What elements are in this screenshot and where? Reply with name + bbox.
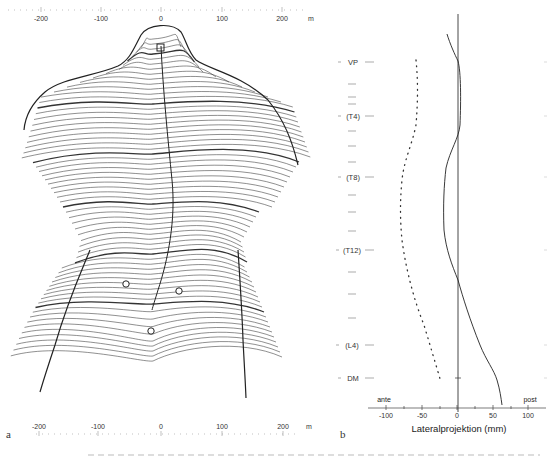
- post-label: post: [523, 396, 536, 404]
- contour-line: [81, 230, 241, 242]
- top-tick-100: 100: [216, 15, 228, 22]
- contour-line: [39, 160, 293, 172]
- top-tick-200: 200: [276, 15, 288, 22]
- bottom-tick-200: 200: [277, 423, 289, 430]
- contour-line: [78, 226, 244, 237]
- contour-line: [51, 181, 281, 192]
- figure-canvas: -200 -100 0 100 200 m -200 -100 0 100 20…: [0, 0, 559, 457]
- contour-line: [75, 221, 247, 232]
- contour-line: [41, 291, 260, 302]
- level-t4: (T4): [346, 112, 360, 121]
- contour-line: [48, 176, 284, 187]
- top-tick-0: 0: [159, 15, 163, 22]
- right-faint-ticks: [544, 62, 547, 378]
- contour-line: [38, 101, 295, 112]
- left-dimple-marker: [123, 281, 129, 287]
- surface-profile-curve: [444, 34, 502, 405]
- bottom-tick-0: 0: [159, 423, 163, 430]
- contour-line: [75, 249, 247, 263]
- contour-line: [60, 197, 272, 207]
- contour-line: [27, 130, 305, 143]
- panel-a-bottom-axis: [36, 431, 295, 436]
- x-axis-title: Lateralprojektion (mm): [411, 423, 506, 434]
- contour-line: [33, 307, 266, 317]
- contour-line: [33, 149, 299, 162]
- contour-line: [36, 301, 265, 312]
- contour-line: [93, 71, 229, 82]
- back-surface-contours: [11, 34, 311, 361]
- panel-b-letter: b: [340, 428, 346, 440]
- right-dimple-marker: [176, 288, 182, 294]
- contour-line: [49, 275, 254, 287]
- contour-line: [36, 155, 296, 168]
- contour-line: [38, 296, 262, 307]
- contour-line: [141, 34, 181, 47]
- xtick-0: 0: [455, 412, 459, 419]
- xtick-50: 50: [489, 412, 497, 419]
- xtick--50: -50: [417, 412, 427, 419]
- dm-marker: [148, 328, 154, 334]
- level-axis: [336, 62, 374, 378]
- vp-marker: [157, 44, 164, 51]
- bottom-tick--200: -200: [32, 423, 46, 430]
- bottom-axis-unit: m: [306, 423, 312, 430]
- panel-a-letter: a: [6, 428, 11, 440]
- contour-line: [39, 96, 292, 107]
- contour-line: [78, 240, 244, 252]
- contour-line: [72, 216, 250, 227]
- spine-projection-dotted: [401, 60, 442, 382]
- top-tick--100: -100: [94, 15, 108, 22]
- level-l4: (L4): [345, 341, 359, 350]
- contour-line: [19, 332, 276, 346]
- ante-label: ante: [377, 396, 391, 403]
- bottom-tick--100: -100: [91, 423, 105, 430]
- contour-line: [44, 286, 258, 297]
- xtick-100: 100: [522, 412, 534, 419]
- contour-line: [29, 125, 304, 137]
- contour-line: [57, 191, 275, 202]
- contour-line: [63, 202, 259, 212]
- top-tick--200: -200: [34, 15, 48, 22]
- level-t8: (T8): [346, 173, 360, 182]
- panel-a-top-axis: [8, 7, 305, 12]
- panel-b-x-ticks: [386, 405, 528, 410]
- contour-line: [30, 312, 268, 322]
- contour-line: [42, 165, 290, 177]
- bottom-tick-100: 100: [216, 423, 228, 430]
- contour-line: [66, 207, 256, 217]
- contour-line: [52, 270, 252, 282]
- contour-line: [25, 134, 307, 147]
- contour-line: [69, 211, 253, 222]
- contour-line: [45, 171, 287, 182]
- xtick--100: -100: [379, 412, 393, 419]
- contour-line: [80, 235, 243, 247]
- contour-line: [41, 92, 281, 102]
- level-dm: DM: [347, 374, 359, 383]
- level-t12: (T12): [343, 246, 361, 255]
- contour-line: [54, 186, 278, 197]
- contour-line: [11, 346, 282, 361]
- top-axis-unit: m: [308, 15, 314, 22]
- level-vp: VP: [348, 58, 358, 67]
- contour-line: [47, 280, 257, 292]
- contour-line: [24, 139, 309, 153]
- contour-line: [106, 66, 216, 77]
